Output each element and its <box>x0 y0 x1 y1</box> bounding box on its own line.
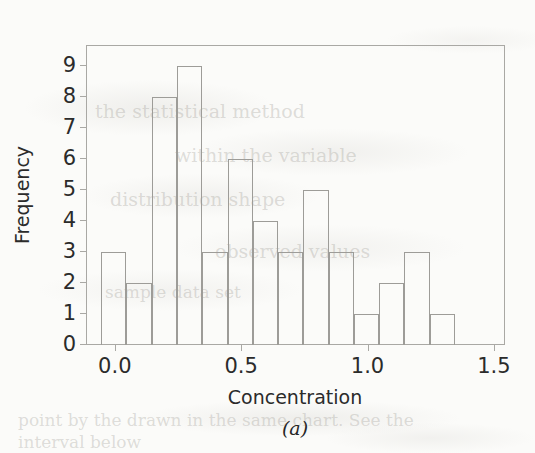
y-axis-tick-label: 4 <box>63 208 76 232</box>
y-axis-tick-label: 0 <box>63 332 76 356</box>
histogram-bar <box>404 252 429 345</box>
histogram-bar <box>278 252 303 345</box>
y-axis-title: Frequency <box>11 146 33 244</box>
histogram-bar <box>228 159 253 345</box>
histogram-bars <box>86 45 505 345</box>
histogram-bar <box>379 283 404 345</box>
histogram-figure: 01234567890.00.51.01.5 Frequency Concent… <box>0 0 535 453</box>
x-axis-tick <box>368 344 369 351</box>
x-axis-tick-label: 1.0 <box>351 354 384 378</box>
histogram-bar <box>253 221 278 345</box>
histogram-bar <box>303 190 328 345</box>
y-axis-tick-label: 1 <box>63 301 76 325</box>
x-axis-tick-label: 1.5 <box>477 354 510 378</box>
histogram-bar <box>152 97 177 345</box>
histogram-bar <box>202 252 227 345</box>
x-axis-tick <box>115 344 116 351</box>
histogram-bar <box>430 314 455 345</box>
y-axis-tick-label: 5 <box>63 177 76 201</box>
histogram-bar <box>126 283 151 345</box>
x-axis-tick-label: 0.0 <box>98 354 131 378</box>
histogram-bar <box>101 252 126 345</box>
y-axis-tick-label: 9 <box>63 53 76 77</box>
x-axis-tick-label: 0.5 <box>224 354 257 378</box>
x-axis-tick <box>494 344 495 351</box>
y-axis-tick-label: 7 <box>63 115 76 139</box>
x-axis-tick <box>241 344 242 351</box>
y-axis-tick-label: 2 <box>63 270 76 294</box>
histogram-bar <box>329 252 354 345</box>
y-axis-tick-label: 3 <box>63 239 76 263</box>
histogram-bar <box>177 66 202 345</box>
panel-caption: (a) <box>282 417 308 439</box>
x-axis-title: Concentration <box>228 386 362 408</box>
histogram-bar <box>354 314 379 345</box>
y-axis-tick-label: 6 <box>63 146 76 170</box>
y-axis-tick-label: 8 <box>63 84 76 108</box>
